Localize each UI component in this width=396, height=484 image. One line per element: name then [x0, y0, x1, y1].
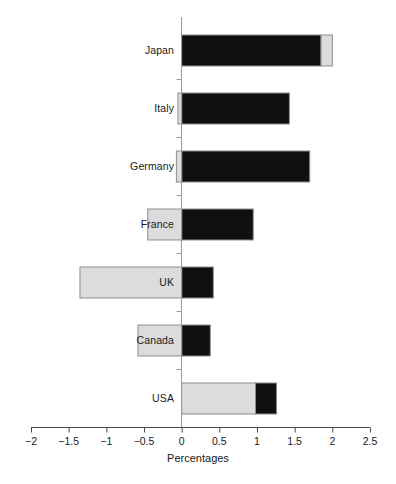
category-label-germany: Germany [130, 160, 174, 172]
bar-segment-france-black-segment [182, 209, 254, 240]
category-label-uk: UK [159, 276, 174, 288]
bar-chart-canvas [0, 0, 396, 484]
bar-segment-usa-light-gray-segment [182, 383, 256, 414]
x-tick-label: −2 [11, 435, 51, 447]
x-tick-label: 0.5 [199, 435, 239, 447]
x-tick-label: 2.5 [350, 435, 390, 447]
x-tick-label: 1 [237, 435, 277, 447]
x-tick-label: 2 [312, 435, 352, 447]
bar-segment-japan-light-gray-segment [321, 35, 332, 66]
bars-layer [80, 35, 332, 414]
category-label-italy: Italy [154, 102, 174, 114]
bar-segment-uk-black-segment [182, 267, 214, 298]
bar-segment-germany-light-gray-segment [176, 151, 181, 182]
chart-figure: JapanItalyGermanyFranceUKCanadaUSA −2−1.… [0, 0, 396, 484]
x-tick-label: −1 [86, 435, 126, 447]
category-label-france: France [141, 218, 174, 230]
bar-segment-usa-black-segment [255, 383, 276, 414]
x-tick-label: 0 [162, 435, 202, 447]
bar-segment-japan-black-segment [182, 35, 321, 66]
bar-segment-canada-black-segment [182, 325, 211, 356]
category-label-canada: Canada [137, 334, 174, 346]
bar-segment-germany-black-segment [182, 151, 310, 182]
category-label-usa: USA [152, 392, 174, 404]
category-label-japan: Japan [145, 44, 174, 56]
x-tick-label: 1.5 [275, 435, 315, 447]
x-axis-title: Percentages [0, 452, 396, 464]
x-tick-label: −1.5 [49, 435, 89, 447]
x-tick-label: −0.5 [124, 435, 164, 447]
bar-segment-italy-black-segment [182, 93, 290, 124]
